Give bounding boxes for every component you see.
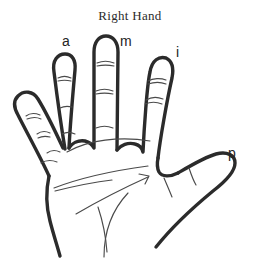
crease-index-mid (146, 98, 163, 100)
finger-label-m: m (120, 34, 132, 48)
crease-ring-distal (58, 77, 71, 79)
middle-finger-outline (69, 36, 118, 150)
crease-life-line (104, 193, 128, 257)
crease-pinky-middle (37, 132, 50, 134)
finger-label-p: p (228, 146, 236, 160)
finger-label-a: a (62, 34, 70, 48)
palm-creases-group (54, 139, 196, 257)
crease-pinky-distal-2 (27, 118, 41, 120)
crease-index-distal (148, 79, 166, 81)
crease-pinky-middle-2 (38, 136, 50, 138)
crease-middle-distal-2 (97, 65, 114, 66)
crease-fate-line (98, 207, 107, 252)
crease-middle-distal (97, 62, 114, 64)
finger-label-i: i (176, 45, 179, 59)
thumb-outline (156, 153, 235, 247)
index-finger-outline (117, 58, 173, 158)
page-title: Right Hand (0, 8, 260, 24)
crease-heart-line (54, 166, 148, 188)
crease-middle-mid (96, 90, 113, 92)
crease-index-distal-2 (148, 83, 166, 85)
crease-ring-distal-2 (58, 80, 71, 81)
palm-right-edge (157, 158, 178, 176)
crease-thumb-joint (189, 168, 196, 185)
crease-head-line (76, 177, 148, 214)
crease-thumb-base (164, 178, 172, 197)
crease-heart-line-echo (55, 180, 112, 191)
crease-pinky-proximal (47, 151, 60, 153)
crease-middle-proximal (96, 127, 113, 129)
right-hand-figure: Right Hand a m i p (0, 0, 260, 268)
crease-middle-mid-2 (96, 93, 113, 94)
pinky-finger-outline (15, 92, 63, 176)
crease-pinky-distal (26, 114, 40, 116)
hand-outline-group (15, 36, 235, 256)
